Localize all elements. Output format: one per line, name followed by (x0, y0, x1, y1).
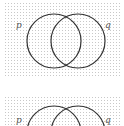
circle-p (27, 106, 81, 126)
label-p: p (16, 21, 22, 30)
label-q: q (105, 116, 111, 125)
label-q: q (105, 21, 111, 30)
circle-q (51, 14, 105, 68)
circle-p (27, 14, 81, 68)
circle-q (51, 106, 105, 126)
venn-diagram-top: p q (4, 2, 120, 77)
label-p: p (16, 116, 22, 125)
venn-diagram-bottom: p q (4, 96, 120, 126)
venn-circles (4, 2, 120, 77)
